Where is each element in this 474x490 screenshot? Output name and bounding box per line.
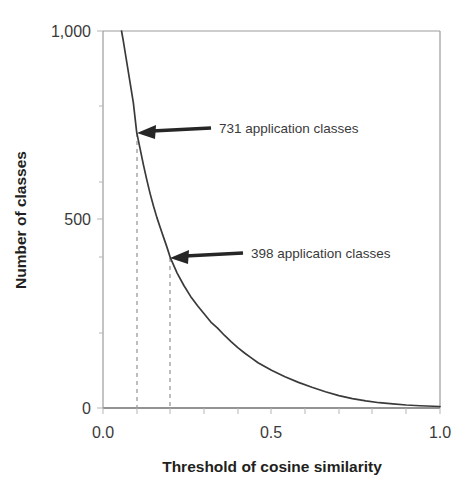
ytick-label-500: 500 xyxy=(64,211,91,228)
annotation-label-398: 398 application classes xyxy=(251,246,391,261)
ytick-label-1000: 1,000 xyxy=(51,23,91,40)
cosine-similarity-line-chart: 731 application classes 398 application … xyxy=(0,0,474,490)
annotation-label-731: 731 application classes xyxy=(219,121,359,136)
chart-figure: 731 application classes 398 application … xyxy=(0,0,474,490)
xtick-label-0: 0.0 xyxy=(92,424,114,441)
x-axis-title: Threshold of cosine similarity xyxy=(162,458,382,475)
ytick-label-0: 0 xyxy=(82,400,91,417)
xtick-label-10: 1.0 xyxy=(429,424,451,441)
y-axis-title: Number of classes xyxy=(12,151,29,289)
xtick-label-05: 0.5 xyxy=(260,424,282,441)
chart-background xyxy=(0,0,474,490)
